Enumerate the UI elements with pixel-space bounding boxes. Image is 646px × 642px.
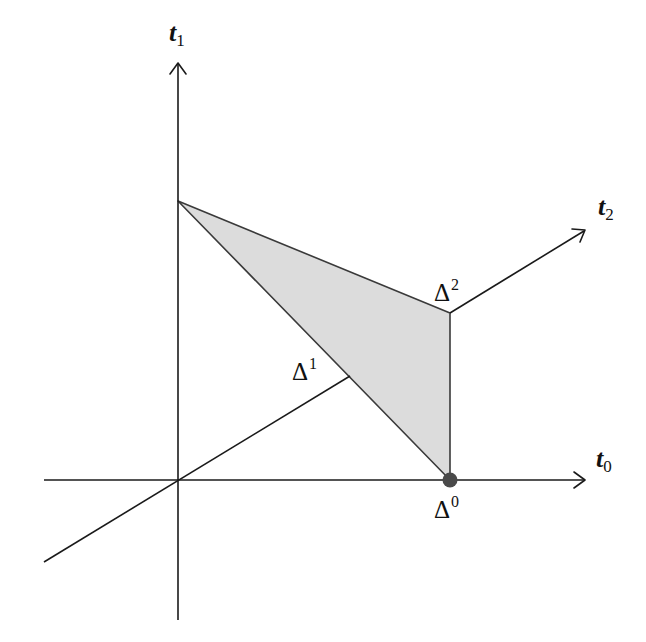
delta2-symbol: Δ xyxy=(434,279,450,306)
simplex-triangle xyxy=(178,201,450,480)
delta0-label: Δ0 xyxy=(434,493,459,524)
delta0-sup: 0 xyxy=(451,493,459,510)
delta2-label: Δ2 xyxy=(434,276,459,307)
t1-axis-label: t1 xyxy=(169,18,185,51)
delta1-symbol: Δ xyxy=(292,358,308,385)
delta1-label: Δ1 xyxy=(292,355,317,386)
t1-sub: 1 xyxy=(176,31,185,50)
t2-axis-label: t2 xyxy=(598,192,614,225)
delta0-vertex-dot xyxy=(443,473,458,488)
t2-axis-back xyxy=(44,376,350,562)
t2-axis-front xyxy=(450,231,584,313)
delta1-sup: 1 xyxy=(309,355,317,372)
delta2-sup: 2 xyxy=(451,276,459,293)
t0-sub: 0 xyxy=(603,457,612,476)
t2-sub: 2 xyxy=(605,205,614,224)
t0-axis-label: t0 xyxy=(596,444,612,477)
simplex-diagram xyxy=(0,0,646,642)
delta0-symbol: Δ xyxy=(434,496,450,523)
